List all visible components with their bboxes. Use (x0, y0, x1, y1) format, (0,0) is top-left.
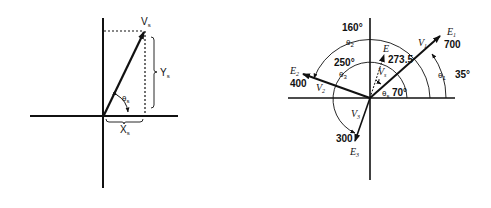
label-theta-s: θs (122, 94, 129, 104)
magnitude-resultant: 273.5 (388, 54, 413, 65)
label-vs: Vs (141, 16, 151, 28)
right-vector-sum-diagram: E1 700 V1 θ1 35° E2 400 V2 160° θ2 E3 30… (288, 18, 470, 180)
magnitude-e3: 300 (336, 133, 353, 144)
angle-e2: 160° (342, 22, 363, 33)
label-e1: E1 (446, 26, 456, 38)
label-e-resultant: E (382, 43, 389, 54)
vector-diagrams: Vs Ys Xs θs E1 700 V1 θ1 35° E2 400 V2 1… (0, 0, 491, 208)
arc-theta2 (314, 39, 430, 98)
angle-resultant: 70° (392, 87, 407, 98)
label-theta3: θ3 (339, 70, 347, 80)
label-vs: Vs (378, 66, 387, 78)
label-v2: V2 (316, 82, 325, 94)
label-theta1: θ1 (438, 71, 446, 81)
magnitude-e1: 700 (444, 39, 461, 50)
label-xs: Xs (120, 124, 130, 136)
magnitude-e2: 400 (290, 78, 307, 89)
label-e3: E3 (349, 146, 359, 158)
left-component-diagram: Vs Ys Xs θs (30, 16, 178, 188)
vector-e2 (303, 74, 370, 98)
angle-e1: 35° (455, 69, 470, 80)
label-v3: V3 (351, 108, 360, 120)
y-brace (151, 37, 157, 108)
angle-e3: 250° (334, 57, 355, 68)
label-ys: Ys (160, 67, 170, 79)
label-e2: E2 (289, 65, 299, 77)
label-theta2: θ2 (346, 38, 354, 48)
label-theta-s: θs (382, 89, 389, 99)
arc-vs-angle (376, 80, 381, 84)
label-v1: V1 (418, 37, 427, 49)
